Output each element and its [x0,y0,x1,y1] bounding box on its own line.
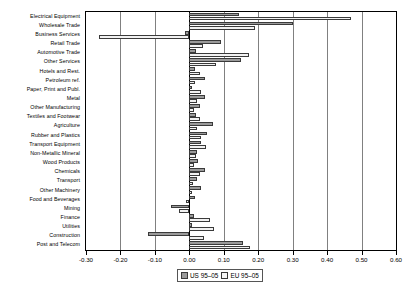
y-axis-label: Paper, Print and Publ. [27,86,80,92]
bar-us [189,77,205,81]
y-axis-label: Mining [64,205,80,211]
bar-us [189,122,212,126]
y-axis-label: Electrical Equipment [30,13,80,19]
bar-us [189,177,196,181]
x-axis-tick-labels: -0.30-0.20-0.100.000.100.200.300.400.500… [85,256,397,266]
bar-us [189,141,200,145]
y-axis-label: Utilities [62,223,80,229]
bar-us [189,196,195,200]
bar-row [86,241,396,250]
bar-eu [189,63,216,67]
bar-us [185,31,189,35]
bar-eu [189,182,192,186]
bar-eu [189,246,250,250]
tickmark [362,251,363,255]
x-tick-label: 0.40 [321,256,333,264]
bar-eu [189,99,196,103]
bar-us [189,214,193,218]
bar-eu [189,17,351,21]
bar-us [189,104,200,108]
tickmark [396,251,397,255]
bar-us [189,168,205,172]
x-tick-label: 0.10 [218,256,230,264]
y-axis-label: Other Manufacturing [30,104,80,110]
bar-row [86,158,396,167]
y-axis-label: Other Services [44,58,80,64]
y-axis-label: Metal [67,95,80,101]
tickmark [155,251,156,255]
y-axis-label: Other Machinery [40,187,80,193]
y-axis-label: Business Services [35,31,80,37]
tickmark [327,251,328,255]
bar-eu [189,81,195,85]
bar-eu [189,172,199,176]
bar-us [189,86,191,90]
y-axis-label: Wood Products [43,159,80,165]
bar-eu [189,108,193,112]
bar-row [86,168,396,177]
y-axis-label: Transport Equipment [29,141,80,147]
bar-row [86,30,396,39]
y-axis-label: Chemicals [55,168,80,174]
y-axis-label: Food and Beverages [29,196,80,202]
x-tick-label: 0.50 [356,256,368,264]
tickmark [293,251,294,255]
bar-us [189,113,196,117]
bar-eu [179,209,189,213]
bar-eu [189,44,202,48]
legend-swatch-eu [221,272,228,279]
bar-us [189,223,191,227]
bar-us [189,40,221,44]
bar-row [86,223,396,232]
tickmark [189,251,190,255]
bar-eu [189,136,200,140]
bar-eu [189,163,193,167]
bar-eu [189,26,254,30]
bar-row [86,58,396,67]
bar-row [86,94,396,103]
bar-row [86,140,396,149]
bar-row [86,149,396,158]
bar-us [189,22,292,26]
y-axis-label: Petroleum ref. [46,77,80,83]
y-axis-label: Construction [49,232,80,238]
tickmark [258,251,259,255]
legend-item: EU 95–05 [221,271,258,280]
plot-area [85,11,397,251]
bar-us [189,58,241,62]
bar-eu [189,218,210,222]
bar-row [86,204,396,213]
bar-eu [189,117,199,121]
bar-eu [189,72,199,76]
bar-eu [189,236,204,240]
bar-us [148,232,189,236]
bar-us [189,49,195,53]
bar-row [86,76,396,85]
bar-eu [189,145,206,149]
y-axis-label: Automotive Trade [37,49,80,55]
y-axis-label: Rubber and Plastics [31,132,80,138]
horizontal-bar-chart: Electrical EquipmentWholesale TradeBusin… [0,0,419,295]
y-axis-label: Non-Metallic Mineral [30,150,80,156]
x-tick-label: 0.60 [390,256,402,264]
y-axis-label: Wholesale Trade [39,22,80,28]
bar-us [189,241,243,245]
bar-eu [189,90,201,94]
legend-swatch-us [181,272,188,279]
x-tick-label: 0.20 [252,256,264,264]
y-axis-label: Post and Telecom [37,241,80,247]
bar-us [189,132,207,136]
legend-label: EU 95–05 [230,271,258,280]
bar-row [86,232,396,241]
legend-label: US 95–05 [190,271,218,280]
bar-us [171,205,189,209]
bar-row [86,49,396,58]
bar-row [86,104,396,113]
bar-us [189,186,201,190]
bar-rows [86,12,396,250]
bar-eu [189,127,197,131]
y-axis-label: Retail Trade [50,40,80,46]
bar-row [86,177,396,186]
bar-us [189,95,205,99]
bar-us [189,159,198,163]
